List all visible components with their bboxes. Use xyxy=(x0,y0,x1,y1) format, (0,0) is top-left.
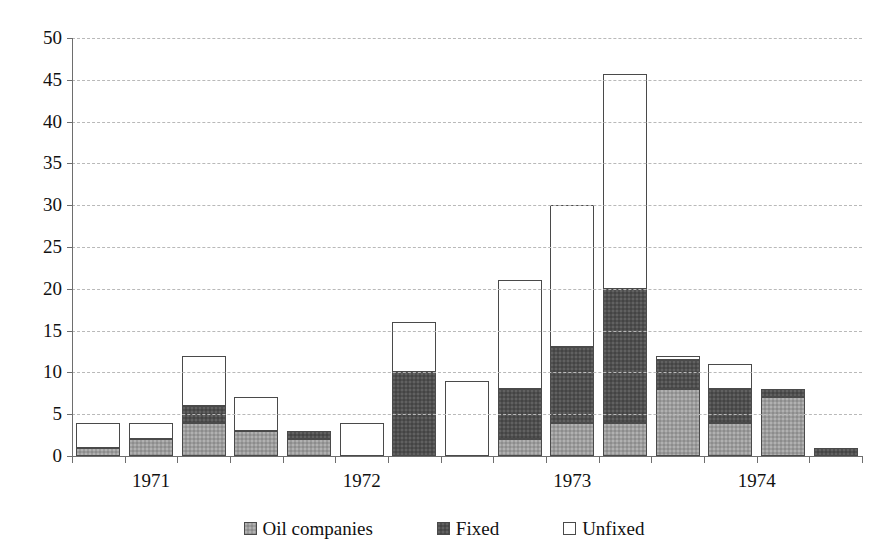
chart-legend: Oil companiesFixedUnfixed xyxy=(0,518,888,539)
x-tick-mark xyxy=(230,456,231,463)
gridline xyxy=(72,38,862,39)
x-axis-tick-label-1974: 1974 xyxy=(717,470,797,492)
x-tick-mark xyxy=(72,456,73,463)
bar-segment-unfixed xyxy=(708,364,752,389)
legend-item-unfixed: Unfixed xyxy=(563,518,644,539)
x-tick-mark xyxy=(809,456,810,463)
gridline xyxy=(72,247,862,248)
x-axis-line xyxy=(72,456,862,457)
y-axis-tick-label: 0 xyxy=(26,446,62,465)
x-axis-tick-label-1973: 1973 xyxy=(532,470,612,492)
x-tick-mark xyxy=(388,456,389,463)
bar-segment-unfixed xyxy=(550,205,594,347)
bar-segment-oil xyxy=(76,448,120,456)
x-tick-mark xyxy=(757,456,758,463)
bar-segment-oil xyxy=(498,439,542,456)
bar-segment-fixed xyxy=(761,389,805,397)
x-tick-mark xyxy=(335,456,336,463)
bar-segment-oil xyxy=(129,439,173,456)
gridline xyxy=(72,414,862,415)
x-axis-tick-label-1971: 1971 xyxy=(111,470,191,492)
bar-segment-oil xyxy=(550,423,594,456)
legend-label: Oil companies xyxy=(263,518,373,539)
y-axis-tick-label: 35 xyxy=(26,153,62,172)
gridline xyxy=(72,122,862,123)
x-tick-mark xyxy=(704,456,705,463)
x-tick-mark xyxy=(493,456,494,463)
bar-segment-unfixed xyxy=(129,423,173,440)
bar-segment-oil xyxy=(287,439,331,456)
legend-swatch-unfixed-icon xyxy=(563,522,576,535)
bar-segment-oil xyxy=(708,423,752,456)
bar-segment-fixed xyxy=(708,389,752,422)
bar-segment-unfixed xyxy=(340,423,384,456)
x-axis-tick-label-1972: 1972 xyxy=(322,470,402,492)
bar-segment-unfixed xyxy=(445,381,489,456)
legend-item-oil: Oil companies xyxy=(244,518,373,539)
x-tick-mark xyxy=(441,456,442,463)
y-axis-tick-label: 50 xyxy=(26,28,62,47)
bar-segment-oil xyxy=(234,431,278,456)
bar-segment-fixed xyxy=(550,347,594,422)
bar-segment-unfixed xyxy=(603,74,647,289)
gridline xyxy=(72,331,862,332)
bar-segment-unfixed xyxy=(76,423,120,448)
y-axis-tick-label: 10 xyxy=(26,362,62,381)
y-axis-line xyxy=(72,38,73,457)
bar-segment-fixed xyxy=(814,448,858,456)
x-tick-mark xyxy=(599,456,600,463)
y-axis-tick-label: 30 xyxy=(26,195,62,214)
y-axis-tick-label: 5 xyxy=(26,404,62,423)
gridline xyxy=(72,80,862,81)
x-tick-mark xyxy=(125,456,126,463)
x-tick-mark xyxy=(651,456,652,463)
legend-swatch-fixed-icon xyxy=(437,522,450,535)
chart-container: 50454035302520151050 1971197219731974 Oi… xyxy=(0,0,888,559)
bar-segment-unfixed xyxy=(656,356,700,360)
bar-segment-fixed xyxy=(656,360,700,389)
bar-segment-fixed xyxy=(287,431,331,439)
legend-label: Unfixed xyxy=(582,518,644,539)
bar-segment-oil xyxy=(182,423,226,456)
bar-segment-oil xyxy=(761,397,805,456)
gridline xyxy=(72,205,862,206)
bar-segment-fixed xyxy=(603,289,647,423)
x-tick-mark xyxy=(177,456,178,463)
bar-segment-oil xyxy=(603,423,647,456)
x-tick-mark xyxy=(283,456,284,463)
y-axis-tick-label: 15 xyxy=(26,321,62,340)
y-axis-tick-label: 20 xyxy=(26,279,62,298)
gridline xyxy=(72,372,862,373)
gridline xyxy=(72,289,862,290)
legend-item-fixed: Fixed xyxy=(437,518,499,539)
gridline xyxy=(72,163,862,164)
bar-segment-unfixed xyxy=(182,356,226,406)
y-axis-tick-label: 45 xyxy=(26,70,62,89)
legend-swatch-oil-icon xyxy=(244,522,257,535)
plot-area xyxy=(72,38,862,456)
x-tick-mark xyxy=(546,456,547,463)
y-axis-tick-label: 25 xyxy=(26,237,62,256)
x-tick-mark xyxy=(862,456,863,463)
y-axis-tick-label: 40 xyxy=(26,112,62,131)
bar-segment-oil xyxy=(656,389,700,456)
legend-label: Fixed xyxy=(456,518,499,539)
